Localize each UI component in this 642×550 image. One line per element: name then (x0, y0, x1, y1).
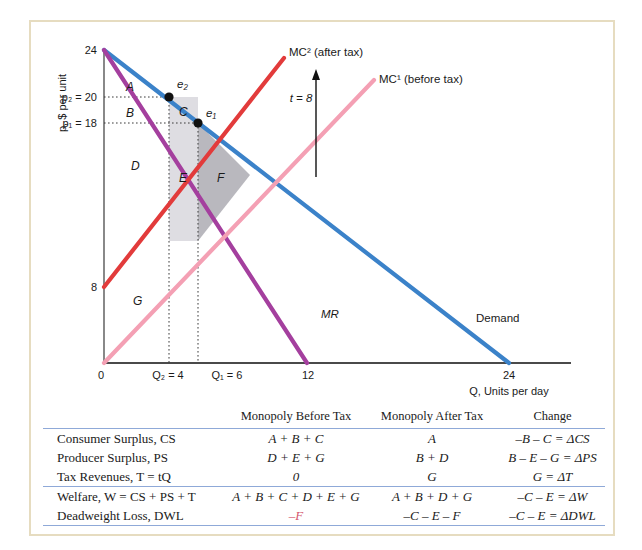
region-label-f: F (217, 171, 225, 185)
mr-label: MR (321, 308, 339, 320)
region-label-a: A (125, 80, 134, 94)
y-tick-8: 8 (91, 281, 97, 293)
header-monopoly-after-tax: Monopoly After Tax (364, 407, 500, 429)
y-tick-p1: p₁ = 18 (62, 117, 97, 129)
header-blank (43, 407, 228, 429)
e1-label: e₁ (206, 107, 216, 119)
mc1-label: MC¹ (before tax) (379, 73, 463, 85)
row-label-tax-revenues: Tax Revenues, T = tQ (43, 467, 228, 487)
region-label-b: B (126, 106, 134, 120)
cell-tax-before: 0 (228, 467, 364, 487)
cell-ps-before: D + E + G (228, 448, 364, 467)
table-row-consumer-surplus: Consumer Surplus, CS A + B + C A –B – C … (43, 429, 605, 449)
equilibrium-point-e1 (193, 118, 202, 127)
cell-ps-after: B + D (364, 448, 500, 467)
x-tick-0: 0 (98, 369, 104, 381)
table-row-producer-surplus: Producer Surplus, PS D + E + G B + D B –… (43, 448, 605, 467)
tax-arrow (312, 69, 320, 177)
header-change: Change (500, 407, 605, 429)
table-row-welfare: Welfare, W = CS + PS + T A + B + C + D +… (43, 487, 605, 507)
demand-label: Demand (476, 312, 519, 324)
header-monopoly-before-tax: Monopoly Before Tax (228, 407, 364, 429)
region-label-d: D (131, 159, 140, 173)
cell-tax-after: G (364, 467, 500, 487)
cell-dwl-after: –C – E – F (364, 506, 500, 526)
table-header-row: Monopoly Before Tax Monopoly After Tax C… (43, 407, 605, 429)
row-label-deadweight-loss: Deadweight Loss, DWL (43, 506, 228, 526)
cell-cs-after: A (364, 429, 500, 449)
x-tick-24: 24 (503, 369, 515, 381)
region-label-c: C (179, 105, 188, 119)
figure-frame: p, $ per unit 24 p₂ = 20 p₁ = 18 8 0 Q₂ … (29, 20, 615, 536)
welfare-comparison-table: Monopoly Before Tax Monopoly After Tax C… (43, 407, 605, 526)
mc2-label: MC² (after tax) (289, 46, 363, 58)
x-tick-12: 12 (302, 369, 314, 381)
x-tick-q2: Q₂ = 4 (152, 369, 183, 381)
cell-cs-change: –B – C = ΔCS (500, 429, 605, 449)
row-label-producer-surplus: Producer Surplus, PS (43, 448, 228, 467)
region-label-e: E (179, 171, 188, 185)
table-row-deadweight-loss: Deadweight Loss, DWL –F –C – E – F –C – … (43, 506, 605, 526)
cell-tax-change: G = ΔT (500, 467, 605, 487)
cell-welfare-change: –C – E = ΔW (500, 487, 605, 507)
cell-cs-before: A + B + C (228, 429, 364, 449)
x-tick-q1: Q₁ = 6 (212, 369, 243, 381)
mc1-curve (104, 80, 374, 363)
y-tick-24: 24 (85, 44, 97, 56)
cell-ps-change: B – E – G = ΔPS (500, 448, 605, 467)
table-row-tax-revenues: Tax Revenues, T = tQ 0 G G = ΔT (43, 467, 605, 487)
x-axis-label: Q, Units per day (469, 385, 549, 397)
cell-dwl-before: –F (228, 506, 364, 526)
y-tick-p2: p₂ = 20 (62, 91, 97, 103)
row-label-welfare: Welfare, W = CS + PS + T (43, 487, 228, 507)
chart-area: p, $ per unit 24 p₂ = 20 p₁ = 18 8 0 Q₂ … (31, 22, 617, 402)
mr-curve (104, 50, 307, 363)
equilibrium-point-e2 (164, 92, 173, 101)
cell-dwl-change: –C – E = ΔDWL (500, 506, 605, 526)
e2-label: e₂ (177, 78, 188, 90)
cell-welfare-after: A + B + D + G (364, 487, 500, 507)
monopoly-tax-chart: p, $ per unit 24 p₂ = 20 p₁ = 18 8 0 Q₂ … (31, 22, 617, 402)
region-label-g: G (133, 294, 142, 308)
cell-welfare-before: A + B + C + D + E + G (228, 487, 364, 507)
row-label-consumer-surplus: Consumer Surplus, CS (43, 429, 228, 449)
tax-label: t = 8 (290, 92, 313, 104)
